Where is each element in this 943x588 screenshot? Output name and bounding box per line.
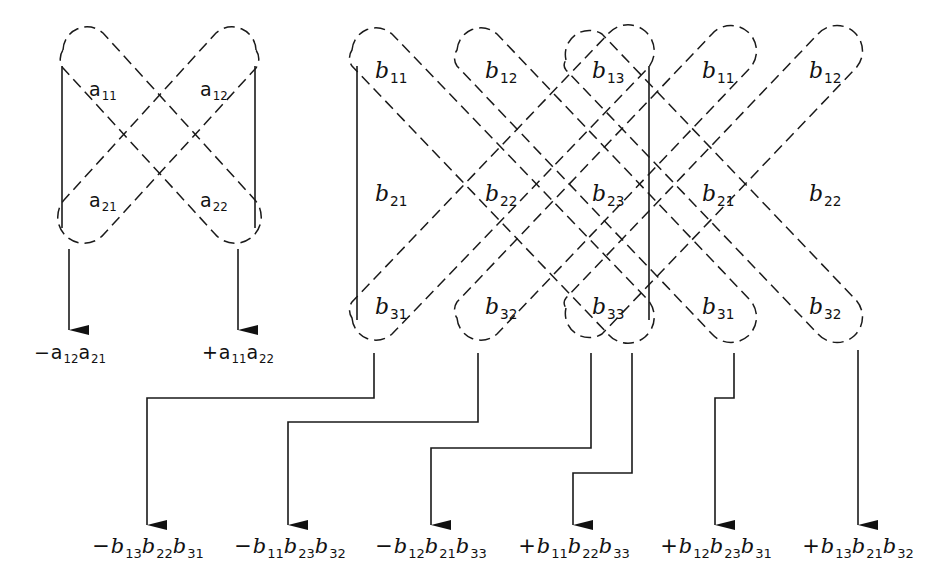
entry-a12: a12: [200, 80, 228, 103]
determinant-diagram: [0, 0, 943, 588]
entry-a21: a21: [89, 191, 117, 214]
connector-minus-b11b23b32: [288, 353, 478, 525]
entry-b11: b11: [375, 60, 407, 85]
connector-plus-b11b22b33: [573, 353, 632, 525]
entry-b32-repeat: b32: [809, 296, 841, 321]
entry-b22: b22: [485, 183, 517, 208]
term-plus-b12b23b31: +b12b23b31: [660, 536, 772, 560]
entry-b32: b32: [485, 296, 517, 321]
entry-b33: b33: [592, 296, 624, 321]
entry-b13: b13: [592, 60, 624, 85]
connectors-3x3: [147, 350, 858, 525]
entry-b21-repeat: b21: [702, 183, 734, 208]
entry-b12: b12: [485, 60, 517, 85]
entry-b21: b21: [375, 183, 407, 208]
term-plus-b13b21b32: +b13b21b32: [802, 536, 914, 560]
entry-b31-repeat: b31: [702, 296, 734, 321]
term-minus-b13b22b31: −b13b22b31: [92, 536, 204, 560]
term-plus-b11b22b33: +b11b22b33: [518, 536, 630, 560]
connector-minus-b12b21b33: [431, 353, 591, 525]
entry-b12-repeat: b12: [809, 60, 841, 85]
term-minus-b12b21b33: −b12b21b33: [375, 536, 487, 560]
entry-b31: b31: [375, 296, 407, 321]
term-minus-b11b23b32: −b11b23b32: [234, 536, 346, 560]
connector-plus-b12b23b31: [715, 353, 734, 525]
connector-minus-b13b22b31: [147, 353, 374, 525]
entry-a11: a11: [89, 80, 117, 103]
entry-b11-repeat: b11: [702, 60, 734, 85]
term-plus-a11a22: +a11a22: [202, 343, 274, 366]
loop-a12-a21: [58, 27, 259, 243]
entry-b22-repeat: b22: [809, 183, 841, 208]
term-minus-a12a21: −a12a21: [34, 343, 106, 366]
entry-b23: b23: [592, 183, 624, 208]
entry-a22: a22: [200, 191, 228, 214]
